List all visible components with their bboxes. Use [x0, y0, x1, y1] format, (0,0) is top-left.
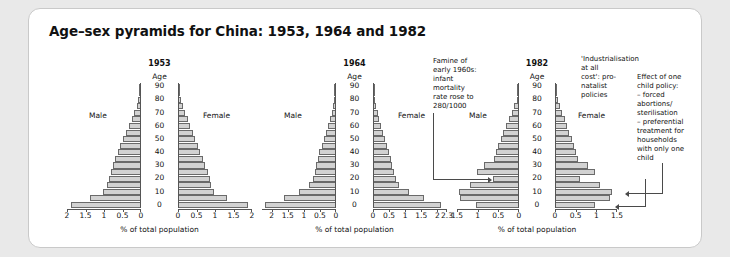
vertical-axis: [373, 83, 374, 208]
bar: [319, 149, 336, 155]
age-axis-label-1964: Age: [262, 72, 447, 81]
bar: [71, 202, 141, 208]
male-bars-1964: 21.510.50: [262, 83, 336, 208]
bar: [484, 162, 519, 168]
famine-leader-vertical: [433, 113, 434, 180]
bar: [126, 130, 141, 136]
bar: [123, 136, 141, 142]
age-tick-label: 90: [519, 83, 555, 91]
age-tick-label: 50: [336, 135, 373, 143]
axis-tick-label: 2: [65, 212, 70, 220]
axis-tick-label: 1: [403, 212, 408, 220]
axis-tick-label: 2: [250, 212, 255, 220]
x-axis-female: 00.511.522.3: [373, 209, 447, 223]
age-axis-1982: 0102030405060708090: [519, 83, 555, 208]
x-axis-label-1953: % of total population: [67, 225, 252, 234]
age-tick-label: 20: [336, 175, 373, 183]
axis-tick-label: 0: [553, 212, 558, 220]
bar: [373, 130, 383, 136]
bar: [178, 176, 210, 182]
x-axis-male: 21.510.50: [67, 209, 141, 223]
age-tick-label: 30: [519, 161, 555, 169]
bar: [555, 162, 588, 168]
bar: [178, 149, 200, 155]
bar: [316, 162, 336, 168]
bar: [118, 149, 141, 155]
bar: [373, 202, 441, 208]
bar: [178, 169, 208, 175]
bar: [178, 156, 203, 162]
bar: [477, 169, 519, 175]
axis-tick-label: 0: [139, 212, 144, 220]
bar: [111, 169, 141, 175]
bar: [120, 143, 141, 149]
age-tick-label: 20: [519, 175, 555, 183]
male-bars-1953: 21.510.50: [67, 83, 141, 208]
axis-tick-label: 0: [371, 212, 376, 220]
bar: [494, 156, 519, 162]
axis-tick-label: 1.5: [228, 212, 240, 220]
bar: [555, 130, 569, 136]
age-tick-label: 10: [336, 188, 373, 196]
female-bars-1982: 00.511.5: [555, 83, 617, 208]
bar: [459, 189, 519, 195]
bar: [178, 189, 214, 195]
chart-title-1964: 1964: [262, 59, 447, 68]
annotation-one-child-policy: Effect of one child policy: – forced abo…: [637, 73, 693, 163]
onechild-arrowhead-a: [625, 191, 629, 197]
bar: [107, 182, 141, 188]
age-tick-label: 70: [336, 109, 373, 117]
bar: [373, 143, 387, 149]
axis-tick-label: 1.5: [611, 212, 623, 220]
bar: [555, 149, 576, 155]
bar: [178, 182, 211, 188]
age-axis-1964: 0102030405060708090: [336, 83, 373, 208]
bar: [178, 136, 195, 142]
axis-tick-label: 0.5: [383, 212, 395, 220]
bar: [503, 130, 519, 136]
age-tick-label: 30: [336, 161, 373, 169]
age-tick-label: 50: [141, 135, 178, 143]
age-tick-label: 40: [141, 148, 178, 156]
x-axis-female: 00.511.52: [178, 209, 252, 223]
age-tick-label: 40: [336, 148, 373, 156]
bar: [555, 182, 600, 188]
age-tick-label: 80: [336, 96, 373, 104]
axis-tick-label: 1.5: [451, 212, 463, 220]
axis-tick-label: 1: [102, 212, 107, 220]
bar: [299, 189, 336, 195]
bar: [476, 202, 519, 208]
axis-tick-label: 0: [176, 212, 181, 220]
x-axis-male: 21.510.50: [262, 209, 336, 223]
bar: [555, 123, 567, 129]
bar: [178, 123, 190, 129]
x-axis-label-1964: % of total population: [262, 225, 447, 234]
bar: [501, 136, 519, 142]
axis-tick-label: 0: [517, 212, 522, 220]
bar: [555, 202, 595, 208]
axis-tick-label: 0.5: [117, 212, 129, 220]
age-tick-label: 90: [336, 83, 373, 91]
bar: [313, 176, 336, 182]
axis-tick-label: 0.5: [570, 212, 582, 220]
axis-tick-label: 1.5: [415, 212, 427, 220]
bar: [373, 195, 424, 201]
bar: [555, 169, 595, 175]
age-tick-label: 70: [141, 109, 178, 117]
chart-title-1953: 1953: [67, 59, 252, 68]
bar: [178, 143, 198, 149]
onechild-leader-vertical-a: [662, 163, 663, 194]
bar: [90, 195, 141, 201]
age-tick-label: 0: [519, 201, 555, 209]
axis-tick-label: 0: [334, 212, 339, 220]
bar: [373, 162, 392, 168]
onechild-arrowhead-b: [615, 204, 619, 210]
bar: [470, 182, 519, 188]
x-axis-male: 1.510.50: [457, 209, 519, 223]
bar: [322, 143, 336, 149]
x-axis-label-1982: % of total population: [457, 225, 617, 234]
bar: [178, 162, 205, 168]
age-tick-label: 80: [519, 96, 555, 104]
onechild-leader-horizontal-a: [629, 193, 663, 194]
bar: [555, 176, 580, 182]
